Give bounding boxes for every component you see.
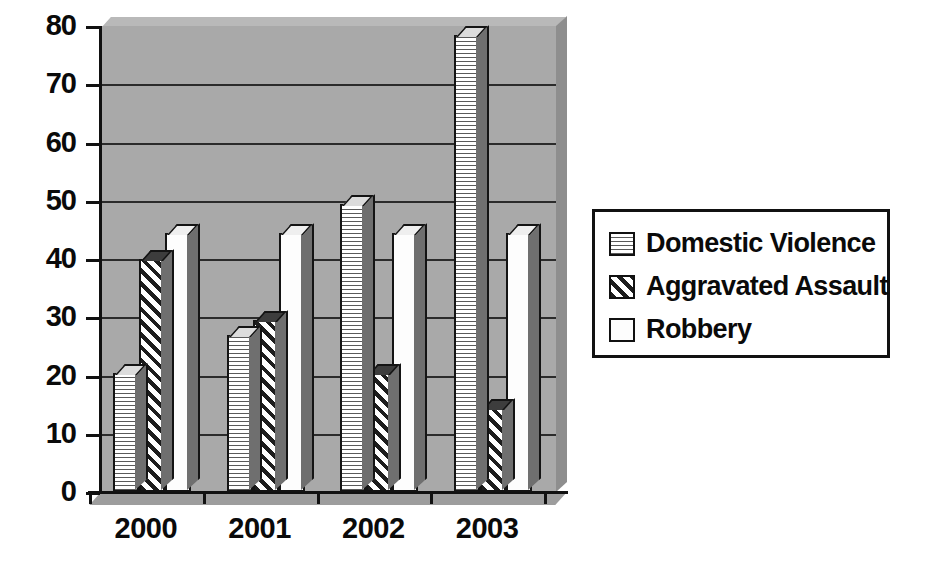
y-axis-label-20: 20 xyxy=(14,361,76,390)
y-axis-label-60: 60 xyxy=(14,128,76,157)
y-axis-label-10: 10 xyxy=(14,419,76,448)
y-tick-80 xyxy=(86,26,100,29)
bar-side-face xyxy=(362,194,375,490)
y-tick-20 xyxy=(86,376,100,379)
y-tick-50 xyxy=(86,201,100,204)
bar-side-face xyxy=(414,223,427,490)
x-tick-3 xyxy=(430,491,433,504)
bar-side-face xyxy=(528,223,541,490)
y-tick-60 xyxy=(86,143,100,146)
y-axis-label-30: 30 xyxy=(14,302,76,331)
legend-swatch-robbery-icon xyxy=(609,318,635,342)
x-axis-label-2003: 2003 xyxy=(427,512,547,545)
x-tick-1 xyxy=(203,491,206,504)
legend-label: Domestic Violence xyxy=(646,228,875,259)
bar-2002-domestic-violence xyxy=(340,204,366,492)
y-axis-label-0: 0 xyxy=(14,477,76,506)
legend-swatch-aggravated-assault-icon xyxy=(609,275,635,299)
legend-item-aggravated-assault[interactable]: Aggravated Assault xyxy=(609,265,887,308)
legend-label: Aggravated Assault xyxy=(646,271,888,302)
x-axis-label-2002: 2002 xyxy=(313,512,433,545)
bar-chart-figure: 01020304050607080 2000200120022003 Domes… xyxy=(0,0,931,571)
x-tick-2 xyxy=(317,491,320,504)
y-axis-label-50: 50 xyxy=(14,186,76,215)
bar-side-face xyxy=(476,25,489,490)
x-axis-label-2000: 2000 xyxy=(86,512,206,545)
chart-legend: Domestic ViolenceAggravated AssaultRobbe… xyxy=(592,209,890,358)
legend-item-domestic-violence[interactable]: Domestic Violence xyxy=(609,222,887,265)
x-tick-0 xyxy=(89,491,92,504)
x-axis-label-2001: 2001 xyxy=(200,512,320,545)
legend-swatch-domestic-violence-icon xyxy=(609,232,635,256)
plot-area xyxy=(101,26,556,492)
bar-2000-domestic-violence xyxy=(113,373,139,492)
x-tick-4 xyxy=(544,491,547,504)
y-tick-40 xyxy=(86,259,100,262)
legend-label: Robbery xyxy=(646,314,751,345)
y-axis-label-70: 70 xyxy=(14,69,76,98)
bar-side-face xyxy=(275,310,288,490)
y-axis-label-40: 40 xyxy=(14,244,76,273)
y-tick-70 xyxy=(86,84,100,87)
bar-side-face xyxy=(249,325,262,490)
bar-side-face xyxy=(187,223,200,490)
bar-side-face xyxy=(301,223,314,490)
bar-side-face xyxy=(388,363,401,490)
y-tick-10 xyxy=(86,434,100,437)
bar-2001-domestic-violence xyxy=(227,335,253,492)
bar-side-face xyxy=(135,363,148,490)
plot-area-right-face xyxy=(556,16,567,492)
bar-side-face xyxy=(161,249,174,490)
y-tick-30 xyxy=(86,317,100,320)
bar-2003-domestic-violence xyxy=(454,35,480,492)
legend-item-robbery[interactable]: Robbery xyxy=(609,308,887,351)
bar-side-face xyxy=(502,398,515,490)
y-axis-label-80: 80 xyxy=(14,11,76,40)
